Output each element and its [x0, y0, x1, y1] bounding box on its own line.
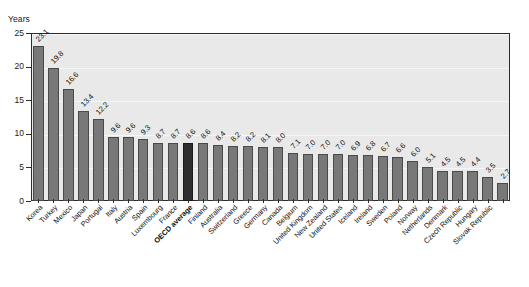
- bar-group[interactable]: 3.5: [482, 33, 492, 201]
- bar[interactable]: [138, 139, 148, 201]
- x-axis-tick-mark: [53, 199, 54, 203]
- bar-group[interactable]: 6.0: [407, 33, 417, 201]
- bar-group[interactable]: 8.2: [228, 33, 238, 201]
- bar[interactable]: [93, 119, 103, 201]
- bar-group[interactable]: 13.4: [78, 33, 88, 201]
- bar-group[interactable]: 8.7: [153, 33, 163, 201]
- bar[interactable]: [258, 147, 268, 201]
- bar-group[interactable]: 8.0: [273, 33, 283, 201]
- bar[interactable]: [288, 153, 298, 201]
- bar-value-label: 9.6: [124, 121, 138, 135]
- bar[interactable]: [303, 154, 313, 201]
- bar-value-label: 4.5: [438, 155, 452, 169]
- bar[interactable]: [452, 171, 462, 201]
- bar-group[interactable]: 8.4: [213, 33, 223, 201]
- bar-group[interactable]: 6.9: [348, 33, 358, 201]
- bar-value-label: 8.6: [184, 127, 198, 141]
- bar-group[interactable]: 2.7: [497, 33, 507, 201]
- bar-group[interactable]: 9.6: [123, 33, 133, 201]
- bar[interactable]: [407, 161, 417, 201]
- y-axis-title: Years: [8, 14, 30, 24]
- bar-group[interactable]: 16.6: [63, 33, 73, 201]
- y-axis-tick-label: 10: [15, 128, 24, 138]
- y-axis-tick-label: 0: [19, 196, 24, 206]
- bar-group[interactable]: 4.5: [452, 33, 462, 201]
- bar[interactable]: [378, 156, 388, 201]
- bar-group[interactable]: 8.1: [258, 33, 268, 201]
- cut-off-header-strip: [0, 0, 529, 8]
- bar-value-label: 8.7: [154, 127, 168, 141]
- y-axis-tick-label: 15: [15, 95, 24, 105]
- bar-value-label: 7.0: [334, 138, 348, 152]
- bar-group[interactable]: 7.0: [318, 33, 328, 201]
- bar[interactable]: [437, 171, 447, 201]
- bar[interactable]: [108, 137, 118, 202]
- bar-value-label: 8.6: [199, 127, 213, 141]
- bar-group[interactable]: 5.1: [422, 33, 432, 201]
- bar-value-label: 6.6: [394, 141, 408, 155]
- x-axis-tick-mark: [128, 199, 129, 203]
- bar-group[interactable]: 4.4: [467, 33, 477, 201]
- bar-group[interactable]: 7.0: [303, 33, 313, 201]
- x-axis-tick-mark: [98, 199, 99, 203]
- bar-group[interactable]: 19.8: [48, 33, 58, 201]
- bar-group[interactable]: 8.2: [243, 33, 253, 201]
- bar-value-label: 8.4: [214, 129, 228, 143]
- bar-group[interactable]: 6.6: [392, 33, 402, 201]
- bar-value-label: 8.7: [169, 127, 183, 141]
- bar[interactable]: [228, 146, 238, 201]
- x-axis-tick-mark: [143, 199, 144, 203]
- bar-group[interactable]: 9.3: [138, 33, 148, 201]
- bar-group[interactable]: 6.8: [363, 33, 373, 201]
- bar[interactable]: [123, 137, 133, 202]
- bar-group[interactable]: 7.1: [288, 33, 298, 201]
- y-axis-tick-label: 5: [19, 162, 24, 172]
- bar-value-label: 8.2: [229, 130, 243, 144]
- bar[interactable]: [318, 154, 328, 201]
- bar-group[interactable]: 12.2: [93, 33, 103, 201]
- bar-value-label: 6.7: [379, 140, 393, 154]
- x-axis-tick-mark: [503, 199, 504, 203]
- bar-group[interactable]: 9.6: [108, 33, 118, 201]
- bar[interactable]: [482, 177, 492, 201]
- bar[interactable]: [363, 155, 373, 201]
- bar[interactable]: [348, 155, 358, 201]
- x-axis-tick-mark: [113, 199, 114, 203]
- y-axis-tick-label: 25: [15, 28, 24, 38]
- bar[interactable]: [467, 171, 477, 201]
- bar-group[interactable]: 6.7: [378, 33, 388, 201]
- bar[interactable]: [198, 143, 208, 201]
- bar[interactable]: [63, 89, 73, 201]
- bar-value-label: 9.6: [109, 121, 123, 135]
- bar[interactable]: [168, 143, 178, 201]
- bar[interactable]: [78, 111, 88, 201]
- bar-value-label: 6.0: [409, 145, 423, 159]
- bar-group[interactable]: 7.0: [333, 33, 343, 201]
- x-axis-labels: KoreaTurkeyMexicoJapanPortugalItalyAustr…: [31, 203, 510, 287]
- bar-value-label: 8.1: [259, 131, 273, 145]
- bar-group[interactable]: 4.5: [437, 33, 447, 201]
- bar[interactable]: [213, 145, 223, 201]
- bar-group[interactable]: 8.6: [183, 33, 193, 201]
- bar-highlight[interactable]: [183, 143, 193, 201]
- bar-value-label: 9.3: [139, 123, 153, 137]
- bar[interactable]: [33, 46, 43, 201]
- x-axis-tick-mark: [68, 199, 69, 203]
- x-axis-tick-mark: [83, 199, 84, 203]
- bar-value-label: 4.5: [453, 155, 467, 169]
- bar-value-label: 7.0: [304, 138, 318, 152]
- bar[interactable]: [48, 68, 58, 201]
- bar-group[interactable]: 23.1: [33, 33, 43, 201]
- y-axis-tick-label: 20: [15, 61, 24, 71]
- bar-group[interactable]: 8.6: [198, 33, 208, 201]
- bar[interactable]: [333, 154, 343, 201]
- bar[interactable]: [243, 146, 253, 201]
- bar-value-label: 6.9: [349, 139, 363, 153]
- bar-value-label: 8.0: [274, 131, 288, 145]
- bar-group[interactable]: 8.7: [168, 33, 178, 201]
- bar[interactable]: [273, 147, 283, 201]
- bar-series: 23.119.816.613.412.29.69.69.38.78.78.68.…: [31, 33, 510, 201]
- bar[interactable]: [422, 167, 432, 201]
- bar[interactable]: [153, 143, 163, 201]
- bar[interactable]: [392, 157, 402, 201]
